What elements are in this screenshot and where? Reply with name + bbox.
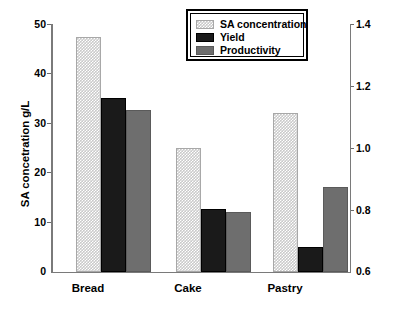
y-right-tick-06: 0.6	[356, 265, 382, 277]
y-left-tick-40: 40	[22, 67, 46, 79]
bar-bread-sa-concentration	[76, 37, 101, 271]
y-left-tick-50: 50	[22, 18, 46, 30]
legend-label-sa-concentration: SA concentration	[220, 19, 307, 30]
bar-group-pastry	[273, 24, 348, 272]
legend-label-yield: Yield	[220, 32, 245, 43]
bar-cake-sa-concentration	[176, 148, 201, 271]
bar-chart: SA concetration g/L Yield SA/g sugar and…	[0, 0, 403, 315]
y-right-tick-14: 1.4	[356, 18, 382, 30]
legend-item-sa-concentration: SA concentration	[196, 18, 298, 31]
bar-bread-yield	[101, 98, 126, 271]
x-axis-label-pastry: Pastry	[245, 282, 325, 294]
bar-pastry-yield	[298, 247, 323, 271]
legend-inner-frame: SA concentration Yield Productivity	[190, 13, 304, 57]
legend-swatch-yield	[196, 33, 214, 42]
y-right-tick-12: 1.2	[356, 80, 382, 92]
axis-spine-right	[350, 24, 352, 273]
legend-swatch-sa-concentration	[196, 20, 214, 29]
plot-area	[51, 24, 351, 273]
bar-group-cake	[176, 24, 251, 272]
y-right-tick-08: 0.8	[356, 204, 382, 216]
y-left-tick-10: 10	[22, 216, 46, 228]
axis-spine-left	[51, 24, 53, 273]
axis-spine-bottom	[51, 272, 351, 274]
bar-cake-productivity	[226, 212, 251, 272]
bar-cake-yield	[201, 209, 226, 271]
bar-pastry-productivity	[323, 187, 348, 271]
bar-pastry-sa-concentration	[273, 113, 298, 271]
y-axis-left-title: SA concetration g/L	[19, 69, 31, 239]
chart-legend: SA concentration Yield Productivity	[186, 9, 308, 61]
bar-group-bread	[76, 24, 151, 272]
legend-label-productivity: Productivity	[220, 45, 281, 56]
y-left-tick-20: 20	[22, 166, 46, 178]
y-left-tick-30: 30	[22, 117, 46, 129]
x-axis-label-bread: Bread	[48, 282, 128, 294]
bar-bread-productivity	[126, 110, 151, 271]
y-right-tick-10: 1.0	[356, 142, 382, 154]
legend-swatch-productivity	[196, 46, 214, 55]
legend-item-productivity: Productivity	[196, 44, 298, 57]
legend-item-yield: Yield	[196, 31, 298, 44]
x-axis-label-cake: Cake	[148, 282, 228, 294]
y-left-tick-0: 0	[22, 265, 46, 277]
